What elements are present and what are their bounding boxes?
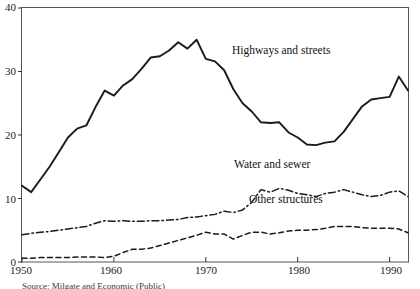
x-tick-label: 1950 [10, 265, 32, 276]
y-tick-label: 30 [0, 66, 16, 77]
series-annotation-label: Other structures [249, 193, 323, 205]
line-chart-plot [0, 0, 420, 289]
plot-frame [22, 8, 409, 263]
x-tick-label: 1990 [380, 265, 402, 276]
y-tick-label: 40 [0, 2, 16, 13]
source-note: Source: Milgate and Economic (Public) [22, 281, 165, 289]
y-tick-label: 20 [0, 130, 16, 141]
figure-container: 403020100 19501960197019801990 Highways … [0, 0, 420, 289]
x-tick-label: 1970 [195, 265, 217, 276]
y-tick-label: 10 [0, 194, 16, 205]
series-annotation-label: Water and sewer [234, 158, 310, 170]
x-tick-label: 1960 [100, 265, 122, 276]
x-tick-label: 1980 [288, 265, 310, 276]
series-annotation-label: Highways and streets [232, 44, 330, 56]
